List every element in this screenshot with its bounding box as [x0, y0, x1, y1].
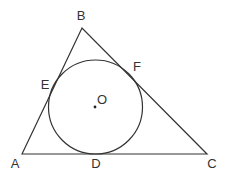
label-f: F	[133, 60, 141, 73]
label-d: D	[91, 157, 100, 170]
triangle-abc	[22, 28, 207, 154]
label-e: E	[41, 78, 50, 91]
label-o: O	[97, 93, 107, 106]
label-b: B	[77, 9, 86, 22]
label-c: C	[207, 157, 216, 170]
label-a: A	[11, 157, 20, 170]
geometry-diagram	[0, 0, 228, 175]
